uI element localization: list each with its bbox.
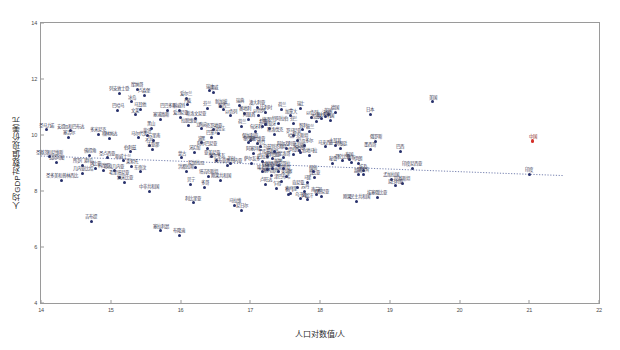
data-point[interactable] — [277, 122, 280, 125]
data-point[interactable] — [362, 173, 365, 176]
data-point[interactable] — [108, 137, 111, 140]
data-point[interactable] — [369, 148, 372, 151]
data-point[interactable] — [116, 109, 119, 112]
data-point[interactable] — [219, 179, 222, 182]
data-point[interactable] — [192, 201, 195, 204]
data-point[interactable] — [411, 167, 414, 170]
data-point[interactable] — [287, 193, 290, 196]
data-point[interactable] — [355, 200, 358, 203]
data-point[interactable] — [90, 220, 93, 223]
data-point[interactable] — [102, 169, 105, 172]
data-point[interactable] — [282, 156, 285, 159]
data-point[interactable] — [252, 152, 255, 155]
data-point[interactable] — [315, 120, 318, 123]
data-point[interactable] — [122, 159, 125, 162]
data-point[interactable] — [200, 127, 203, 130]
data-point[interactable] — [257, 114, 260, 117]
data-point[interactable] — [240, 209, 243, 212]
data-point[interactable] — [528, 173, 531, 176]
data-point[interactable] — [282, 167, 285, 170]
data-point[interactable] — [399, 150, 402, 153]
data-point[interactable] — [118, 92, 121, 95]
data-point[interactable] — [350, 161, 353, 164]
data-point[interactable] — [229, 162, 232, 165]
data-point[interactable] — [210, 136, 213, 139]
data-point[interactable] — [285, 147, 288, 150]
data-point[interactable] — [178, 109, 181, 112]
data-point[interactable] — [308, 130, 311, 133]
data-point[interactable] — [376, 196, 379, 199]
data-point[interactable] — [341, 159, 344, 162]
data-point[interactable] — [296, 186, 299, 189]
x-tick-mark — [529, 300, 530, 303]
data-point[interactable] — [357, 173, 360, 176]
data-point[interactable] — [189, 183, 192, 186]
data-point[interactable] — [203, 186, 206, 189]
data-point[interactable] — [273, 133, 276, 136]
data-point[interactable] — [329, 119, 332, 122]
data-point[interactable] — [159, 118, 162, 121]
data-point[interactable] — [67, 136, 70, 139]
data-point[interactable] — [134, 113, 137, 116]
data-point[interactable] — [151, 148, 154, 151]
data-point[interactable] — [369, 113, 372, 116]
data-point[interactable] — [106, 156, 109, 159]
data-point[interactable] — [212, 91, 215, 94]
data-point[interactable] — [273, 150, 276, 153]
data-point-label: 日本 — [366, 107, 374, 111]
data-point[interactable] — [250, 162, 253, 165]
data-point[interactable] — [206, 107, 209, 110]
data-point[interactable] — [123, 181, 126, 184]
data-point[interactable] — [88, 154, 91, 157]
data-point[interactable] — [339, 147, 342, 150]
data-point[interactable] — [394, 184, 397, 187]
data-point[interactable] — [186, 103, 189, 106]
data-point[interactable] — [324, 145, 327, 148]
data-point[interactable] — [208, 89, 211, 92]
data-point[interactable] — [187, 124, 190, 127]
data-point[interactable] — [159, 229, 162, 232]
data-point[interactable] — [247, 141, 250, 144]
data-point[interactable] — [240, 125, 243, 128]
data-point[interactable] — [55, 161, 58, 164]
data-point[interactable] — [431, 100, 434, 103]
data-point[interactable] — [137, 136, 140, 139]
data-point[interactable] — [194, 166, 197, 169]
data-point[interactable] — [306, 198, 309, 201]
data-point[interactable] — [185, 170, 188, 173]
data-point[interactable] — [256, 106, 259, 109]
data-point[interactable] — [313, 176, 316, 179]
data-point-label: 中国 — [529, 135, 537, 139]
data-point[interactable] — [247, 118, 250, 121]
data-point[interactable] — [148, 190, 151, 193]
data-point[interactable] — [207, 175, 210, 178]
data-point[interactable] — [331, 162, 334, 165]
data-point[interactable] — [299, 197, 302, 200]
data-point[interactable] — [81, 172, 84, 175]
data-point[interactable] — [280, 108, 283, 111]
data-point[interactable] — [130, 165, 133, 168]
data-point[interactable] — [229, 114, 232, 117]
data-point[interactable] — [320, 195, 323, 198]
data-point[interactable] — [308, 154, 311, 157]
data-point[interactable] — [292, 122, 295, 125]
data-point[interactable] — [130, 100, 133, 103]
data-point[interactable] — [143, 94, 146, 97]
data-point[interactable] — [60, 179, 63, 182]
data-point[interactable] — [271, 167, 274, 170]
data-point[interactable] — [193, 151, 196, 154]
data-point[interactable] — [178, 234, 181, 237]
data-point[interactable] — [264, 123, 267, 126]
data-point[interactable] — [275, 187, 278, 190]
data-point[interactable] — [97, 133, 100, 136]
data-point[interactable] — [292, 153, 295, 156]
data-point-label: 安提瓜和巴布达 — [57, 124, 84, 128]
data-point[interactable] — [299, 107, 302, 110]
data-point-highlighted[interactable] — [531, 139, 534, 142]
data-point[interactable] — [45, 128, 48, 131]
data-point[interactable] — [94, 167, 97, 170]
y-tick-label: 10 — [31, 132, 37, 138]
data-point[interactable] — [180, 156, 183, 159]
data-point[interactable] — [264, 183, 267, 186]
data-point[interactable] — [139, 170, 142, 173]
